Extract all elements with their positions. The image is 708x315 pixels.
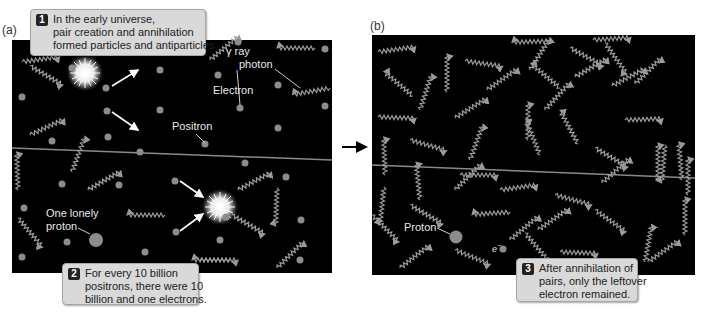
particle-arrows-panel-a <box>112 70 203 231</box>
burst-lower <box>202 189 238 225</box>
photons-panel-b <box>371 35 690 269</box>
leader-line-proton-b <box>437 228 450 234</box>
proton-label-b: Proton <box>404 221 436 233</box>
callout-1-line-3: formed particles and antiparticles. <box>53 39 199 52</box>
callout-3-line-1: After annihilation of <box>539 262 631 275</box>
burst-upper <box>67 55 103 91</box>
callout-1-number: 1 <box>36 14 48 26</box>
positron-label: Positron <box>172 120 212 132</box>
callout-2-line-3: billion and one electrons. <box>85 293 192 306</box>
callout-2-line-2: positrons, there were 10 <box>85 280 192 293</box>
electron-symbol-b: e− <box>492 242 501 254</box>
divider-line-a <box>12 148 332 160</box>
gamma-ray-label-line1: γ ray <box>226 45 250 57</box>
callout-2-line-1: For every 10 billion <box>85 267 192 280</box>
callout-2-number: 2 <box>68 268 80 280</box>
lonely-proton <box>89 233 103 247</box>
callout-1: 1 In the early universe, pair creation a… <box>30 9 206 56</box>
gamma-ray-label-line2: photon <box>239 58 273 70</box>
callout-1-line-2: pair creation and annihilation <box>53 26 199 39</box>
electron-symbol-sup: − <box>497 242 501 249</box>
callout-3-number: 3 <box>522 263 534 275</box>
electron-label: Electron <box>213 84 253 96</box>
photons-panel-a <box>15 34 331 269</box>
proton-b <box>450 231 463 244</box>
proton-label-line1: One lonely <box>46 207 99 219</box>
callout-3-line-3: electron remained. <box>539 288 631 301</box>
proton-label-line2: proton <box>46 220 77 232</box>
callout-3: 3 After annihilation of pairs, only the … <box>516 258 638 302</box>
callout-1-line-1: In the early universe, <box>53 13 199 26</box>
divider-line-b <box>372 165 695 178</box>
callout-3-line-2: pairs, only the leftover <box>539 275 631 288</box>
callout-2: 2 For every 10 billion positrons, there … <box>62 263 199 305</box>
